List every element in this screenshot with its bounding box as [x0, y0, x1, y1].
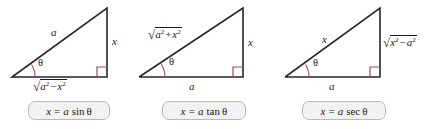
- formula-argument: θ: [220, 105, 227, 117]
- formula-box-tan: x=atanθ: [162, 101, 246, 120]
- right-angle-icon: [97, 67, 107, 77]
- adjacent-side-label: a: [329, 81, 335, 92]
- opposite-side-label: x: [112, 36, 117, 47]
- triangle-diagram-tan: [139, 0, 284, 95]
- triangle-outline: [12, 8, 107, 77]
- formula-argument: θ: [85, 105, 92, 117]
- radicand: x2−a2: [390, 35, 417, 48]
- adjacent-side-label: a: [189, 81, 195, 92]
- angle-theta-label: θ: [38, 58, 43, 69]
- angle-theta-label: θ: [169, 57, 174, 68]
- right-angle-icon: [233, 67, 243, 77]
- radicand-exp-1: 2: [395, 36, 399, 44]
- radicand-exp-2: 2: [62, 80, 66, 88]
- triangle-panel-sin: a x θ √a2−x2 x=asinθ: [0, 0, 145, 129]
- angle-theta-label: θ: [313, 58, 318, 69]
- radicand: a2+x2: [155, 27, 182, 40]
- hypotenuse-radical-label: √a2+x2: [148, 28, 182, 41]
- adjacent-side-radical-label: √a2−x2: [33, 80, 67, 93]
- trig-substitution-figure: a x θ √a2−x2 x=asinθ √a2+x2 x θ a x=atan…: [0, 0, 431, 129]
- formula-equals: =: [51, 105, 63, 117]
- angle-arc: [161, 64, 165, 78]
- opposite-side-radical-label: √x2−a2: [383, 36, 417, 49]
- triangle-outline: [285, 8, 380, 77]
- opposite-side-label: x: [248, 37, 253, 48]
- angle-arc: [32, 65, 36, 78]
- right-angle-icon: [370, 67, 380, 77]
- formula-function: sin: [69, 105, 85, 117]
- radicand-exp-2: 2: [412, 36, 416, 44]
- formula-equals: =: [186, 105, 198, 117]
- formula-function: sec: [343, 105, 360, 117]
- formula-equals: =: [325, 105, 337, 117]
- hypotenuse-label: x: [322, 34, 327, 45]
- triangle-diagram-sin: [0, 0, 145, 95]
- formula-box-sin: x=asinθ: [28, 101, 110, 120]
- radicand-operator: −: [399, 36, 407, 48]
- triangle-panel-tan: √a2+x2 x θ a x=atanθ: [139, 0, 284, 129]
- angle-arc: [306, 65, 310, 78]
- triangle-outline: [139, 8, 243, 77]
- radicand-exp-2: 2: [177, 28, 181, 36]
- radicand: a2−x2: [40, 79, 67, 92]
- formula-box-sec: x=asecθ: [302, 101, 386, 120]
- triangle-panel-sec: x √x2−a2 θ a x=asecθ: [285, 0, 430, 129]
- formula-function: tan: [203, 105, 219, 117]
- hypotenuse-label: a: [51, 27, 57, 38]
- formula-argument: θ: [360, 105, 367, 117]
